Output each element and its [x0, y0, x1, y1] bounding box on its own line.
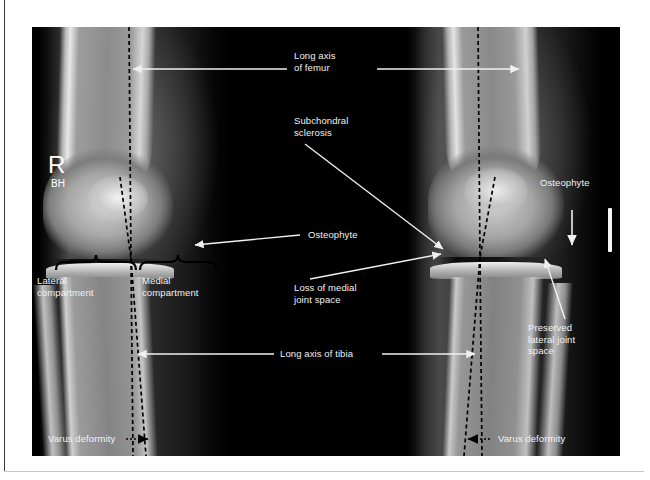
label-loss-medial-joint-space: Loss of medial joint space: [294, 282, 357, 305]
technologist-initials: BH: [51, 179, 65, 189]
side-marker-R: R: [48, 153, 65, 177]
leader-loss-medial-joint-space: [310, 254, 441, 279]
radiograph-plate: R BH Long axis of femur Subchondral scle…: [32, 27, 620, 456]
label-lateral-compartment: Lateral compartment: [37, 275, 94, 298]
label-osteophyte-left: Osteophyte: [308, 229, 358, 241]
label-long-axis-tibia: Long axis of tibia: [280, 348, 353, 360]
label-osteophyte-right: Osteophyte: [540, 177, 590, 189]
brace-lateral-compartment: [56, 255, 136, 270]
label-long-axis-femur: Long axis of femur: [294, 50, 336, 73]
label-preserved-lateral-joint-space: Preserved lateral joint space: [528, 322, 575, 357]
page-frame: R BH Long axis of femur Subchondral scle…: [0, 0, 650, 480]
label-medial-compartment: Medial compartment: [142, 275, 199, 298]
scale-bar-marker: [608, 208, 612, 252]
page-left-rule: [4, 0, 5, 472]
page-bottom-rule: [4, 471, 644, 472]
brace-medial-compartment: [140, 255, 216, 270]
label-varus-deformity-left: Varus deformity: [48, 433, 115, 445]
axis-lines-right-knee: [120, 27, 146, 456]
leader-osteophyte-left: [195, 235, 300, 245]
axis-lines-left-knee: [464, 27, 495, 456]
leader-preserved-lateral-joint-space: [545, 259, 565, 319]
label-subchondral-sclerosis: Subchondral sclerosis: [294, 115, 348, 138]
annotation-overlay: [32, 27, 620, 456]
label-varus-deformity-right: Varus deformity: [498, 433, 565, 445]
